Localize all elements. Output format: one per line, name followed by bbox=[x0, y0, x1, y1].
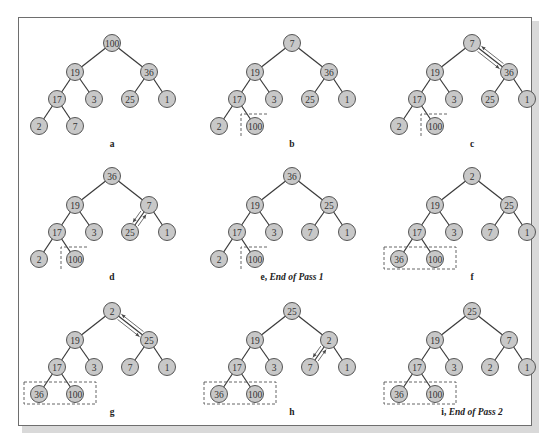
heap-node: 2 bbox=[321, 332, 338, 349]
heap-node: 36 bbox=[104, 168, 121, 185]
panel-label: e, End of Pass 1 bbox=[260, 272, 323, 282]
node-value: 3 bbox=[452, 228, 457, 238]
node-value: 1 bbox=[525, 228, 530, 238]
heap-node: 2 bbox=[31, 251, 48, 268]
node-value: 1 bbox=[525, 95, 530, 105]
heap-node: 7 bbox=[284, 35, 301, 52]
arrow-head-icon bbox=[322, 350, 326, 354]
node-value: 25 bbox=[125, 95, 135, 105]
node-value: 2 bbox=[397, 122, 402, 132]
heap-node: 36 bbox=[321, 64, 338, 81]
heap-node: 7 bbox=[464, 35, 481, 52]
node-value: 2 bbox=[488, 363, 493, 373]
node-value: 25 bbox=[305, 95, 315, 105]
heap-node: 3 bbox=[446, 91, 463, 108]
node-value: 1 bbox=[165, 363, 170, 373]
heap-node: 19 bbox=[427, 332, 444, 349]
panel-d: 361971732512100d bbox=[31, 168, 176, 283]
node-value: 19 bbox=[250, 68, 260, 78]
node-value: 3 bbox=[452, 95, 457, 105]
node-value: 17 bbox=[52, 228, 62, 238]
heap-node: 17 bbox=[409, 91, 426, 108]
heap-node: 1 bbox=[159, 359, 176, 376]
heap-node: 100 bbox=[67, 251, 84, 268]
node-value: 2 bbox=[110, 307, 115, 317]
heap-node: 100 bbox=[247, 386, 264, 403]
heap-node: 25 bbox=[501, 197, 518, 214]
panel-g: 219251737136100g bbox=[24, 303, 176, 418]
heap-node: 1 bbox=[339, 359, 356, 376]
node-value: 1 bbox=[525, 363, 530, 373]
node-value: 17 bbox=[232, 228, 242, 238]
panel-h: 251921737136100h bbox=[204, 303, 356, 418]
heap-node: 17 bbox=[49, 359, 66, 376]
heap-node: 17 bbox=[229, 91, 246, 108]
heap-node: 25 bbox=[122, 224, 139, 241]
heap-node: 1 bbox=[159, 224, 176, 241]
node-value: 2 bbox=[327, 336, 332, 346]
heap-node: 1 bbox=[519, 359, 536, 376]
heap-node: 17 bbox=[49, 224, 66, 241]
node-value: 19 bbox=[430, 68, 440, 78]
node-value: 3 bbox=[272, 95, 277, 105]
node-value: 36 bbox=[394, 390, 404, 400]
node-value: 19 bbox=[250, 336, 260, 346]
node-value: 25 bbox=[504, 201, 514, 211]
node-value: 36 bbox=[324, 68, 334, 78]
node-value: 19 bbox=[70, 68, 80, 78]
heap-node: 36 bbox=[31, 386, 48, 403]
node-value: 17 bbox=[412, 95, 422, 105]
arrow-head-icon bbox=[142, 215, 146, 219]
node-value: 36 bbox=[394, 255, 404, 265]
panel-label: g bbox=[110, 407, 115, 417]
heap-node: 19 bbox=[67, 64, 84, 81]
node-value: 3 bbox=[452, 363, 457, 373]
heap-node: 25 bbox=[482, 91, 499, 108]
heap-node: 19 bbox=[427, 64, 444, 81]
heap-node: 19 bbox=[67, 197, 84, 214]
panel-i: 251971732136100i, End of Pass 2 bbox=[384, 303, 536, 418]
node-value: 2 bbox=[470, 172, 475, 182]
heap-node: 19 bbox=[247, 332, 264, 349]
heap-node: 36 bbox=[211, 386, 228, 403]
node-value: 36 bbox=[214, 390, 224, 400]
node-value: 100 bbox=[68, 255, 83, 265]
heap-node: 2 bbox=[211, 251, 228, 268]
heap-node: 2 bbox=[31, 118, 48, 135]
node-value: 36 bbox=[287, 172, 297, 182]
heap-node: 100 bbox=[427, 118, 444, 135]
node-value: 25 bbox=[144, 336, 154, 346]
heap-node: 1 bbox=[339, 224, 356, 241]
heap-sort-diagram: 100193617325127a719361732512100b71936173… bbox=[0, 0, 551, 442]
node-value: 7 bbox=[488, 228, 493, 238]
node-value: 17 bbox=[412, 228, 422, 238]
node-value: 1 bbox=[345, 363, 350, 373]
heap-node: 7 bbox=[501, 332, 518, 349]
heap-node: 36 bbox=[391, 386, 408, 403]
node-value: 100 bbox=[105, 39, 120, 49]
node-value: 19 bbox=[430, 201, 440, 211]
heap-node: 100 bbox=[427, 251, 444, 268]
node-value: 36 bbox=[504, 68, 514, 78]
arrow-head-icon bbox=[313, 353, 317, 357]
node-value: 100 bbox=[428, 122, 443, 132]
node-value: 3 bbox=[92, 363, 97, 373]
node-value: 100 bbox=[248, 255, 263, 265]
heap-node: 2 bbox=[482, 359, 499, 376]
heap-node: 36 bbox=[284, 168, 301, 185]
node-value: 100 bbox=[248, 122, 263, 132]
node-value: 100 bbox=[428, 390, 443, 400]
node-value: 7 bbox=[290, 39, 295, 49]
heap-node: 25 bbox=[302, 91, 319, 108]
heap-node: 3 bbox=[266, 224, 283, 241]
node-value: 19 bbox=[70, 336, 80, 346]
heap-node: 3 bbox=[86, 224, 103, 241]
swap-arrow bbox=[118, 319, 140, 336]
panel-label: a bbox=[110, 139, 115, 149]
heap-node: 36 bbox=[141, 64, 158, 81]
panel-label: c bbox=[470, 139, 474, 149]
arrow-head-icon bbox=[133, 218, 137, 222]
node-value: 17 bbox=[232, 95, 242, 105]
panel-label: h bbox=[289, 407, 295, 417]
panel-a: 100193617325127a bbox=[31, 35, 176, 150]
